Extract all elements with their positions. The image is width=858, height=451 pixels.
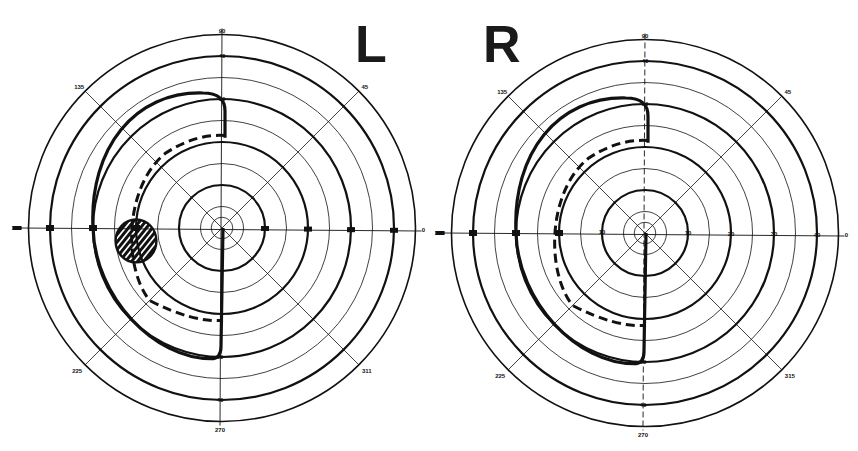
left-eye-visual-field-chart: 904513518002253112704030304010203040 bbox=[11, 28, 425, 433]
meridian-label-90: 90 bbox=[219, 28, 226, 34]
ring-label-10-right: 10 bbox=[685, 230, 692, 236]
ring-label-40-bottom: 40 bbox=[217, 397, 224, 403]
ring-label-30-right: 30 bbox=[771, 231, 778, 237]
meridian-label-270: 270 bbox=[215, 427, 226, 433]
ring-label-40-top: 40 bbox=[642, 58, 649, 64]
meridian-label-225: 225 bbox=[72, 368, 83, 374]
meridian-label-0: 0 bbox=[845, 232, 849, 238]
ring-label-20-right: 20 bbox=[305, 226, 312, 232]
ring-label-10-right: 10 bbox=[262, 225, 269, 231]
ring-label-40-right: 40 bbox=[391, 227, 398, 233]
ring-label-30-right: 30 bbox=[348, 226, 355, 232]
meridian-label-135: 135 bbox=[74, 84, 85, 90]
meridian-label-315: 311 bbox=[362, 368, 372, 374]
meridian-label-90: 90 bbox=[642, 33, 649, 39]
meridian-label-315: 315 bbox=[785, 373, 796, 379]
ring-label-40-right: 40 bbox=[814, 232, 821, 238]
ring-label-40-bottom: 40 bbox=[640, 402, 647, 408]
ring-label-20-right: 20 bbox=[728, 231, 735, 237]
ring-marker-left bbox=[469, 230, 477, 236]
meridian-label-135: 135 bbox=[497, 89, 508, 95]
axis-end-marker bbox=[436, 231, 445, 235]
ring-label-40-top: 40 bbox=[219, 53, 226, 59]
meridian-label-270: 270 bbox=[638, 432, 649, 438]
perimetry-figure: L R 904513518002253112704030304010203040… bbox=[0, 0, 858, 451]
axis-end-marker bbox=[13, 226, 22, 230]
meridian-label-225: 225 bbox=[495, 373, 506, 379]
meridian-label-45: 45 bbox=[361, 84, 368, 90]
right-eye-visual-field-chart: 9045135180022531527040303040102030401020 bbox=[434, 33, 848, 438]
ring-marker-left bbox=[46, 225, 54, 231]
meridian-label-45: 45 bbox=[784, 89, 791, 95]
ring-label-10-left: 10 bbox=[599, 229, 606, 235]
meridian-label-0: 0 bbox=[422, 227, 426, 233]
